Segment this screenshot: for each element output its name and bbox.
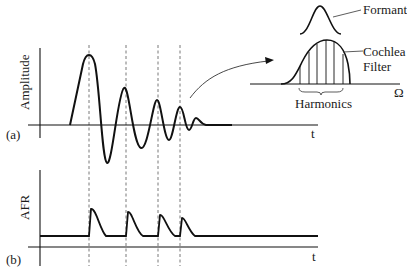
cochlea-label-line1: Cochlea	[363, 45, 406, 58]
arrow-head-icon	[265, 57, 274, 64]
harmonics-brace	[299, 88, 343, 95]
panel-a-axes	[28, 48, 318, 138]
panel-b-axes	[28, 170, 318, 266]
panel-b-tag: (b)	[6, 253, 21, 266]
amplitude-axis-label: Amplitude	[18, 54, 31, 110]
afr-axis-label: AFR	[18, 195, 31, 220]
panel-a-tag: (a)	[6, 128, 20, 141]
harmonic-lines	[300, 40, 343, 84]
cochlea-filter-curve	[281, 40, 350, 84]
panel-a-time-label: t	[311, 127, 315, 140]
afr-pulse-train	[40, 209, 318, 236]
formant-label: Formant	[363, 3, 407, 16]
dashed-guides	[89, 45, 180, 266]
formant-leader	[333, 10, 361, 17]
pointer-arrow	[190, 61, 268, 98]
damped-waveform	[70, 55, 232, 163]
cochlea-leader	[343, 51, 363, 52]
cochlea-label-line2: Filter	[363, 60, 391, 73]
formant-curve	[300, 6, 341, 34]
harmonics-label: Harmonics	[295, 97, 352, 110]
omega-axis-label: Ω	[394, 86, 404, 99]
panel-b-time-label: t	[312, 250, 316, 263]
